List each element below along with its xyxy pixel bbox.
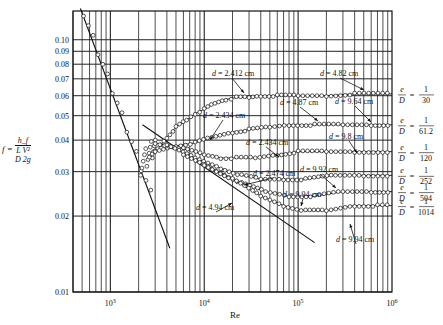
annotation-label: d = 4.87 cm: [280, 98, 319, 107]
data-point: [304, 124, 308, 128]
data-point: [295, 208, 299, 212]
equals-sign: =: [410, 122, 415, 131]
data-point: [301, 149, 305, 153]
y-tick-label: 0.07: [55, 75, 69, 84]
data-point: [280, 153, 284, 157]
friction-factor-chart: d = 2.412 cmd = 4.82 cmd = 4.87 cmd = 9.…: [0, 0, 443, 325]
data-point: [369, 124, 373, 128]
data-point: [346, 190, 350, 194]
data-point: [235, 130, 239, 134]
data-point: [229, 97, 233, 101]
data-point: [355, 190, 359, 194]
data-point: [288, 152, 292, 156]
data-point: [362, 151, 366, 155]
data-point: [380, 203, 384, 207]
annotation-value: = 4.82 cm: [324, 69, 359, 78]
data-point: [376, 151, 380, 155]
data-point: [171, 130, 175, 134]
y-label-den-top: L V²: [16, 146, 30, 155]
data-point: [327, 191, 331, 195]
data-point: [299, 178, 303, 182]
data-point: [381, 174, 385, 178]
data-point: [271, 95, 275, 99]
x-tick-label: 106: [387, 298, 398, 308]
data-point: [264, 125, 268, 129]
data-point: [268, 125, 272, 129]
data-point: [231, 177, 235, 181]
y-tick-label: 0.09: [55, 47, 69, 56]
roughness-label: eD=1120: [398, 143, 434, 163]
data-point: [247, 186, 251, 190]
data-point: [218, 133, 222, 137]
data-point: [329, 150, 333, 154]
laminar-data-point: [120, 111, 124, 115]
data-point: [206, 166, 210, 170]
data-point: [282, 124, 286, 128]
data-point: [263, 196, 267, 200]
data-point: [244, 155, 248, 159]
y-tick-label: 0.06: [55, 92, 69, 101]
reference-line: [80, 9, 169, 249]
data-point: [282, 178, 286, 182]
data-point: [299, 209, 303, 213]
roughness-e: e: [400, 85, 404, 94]
transition-data-point: [140, 166, 144, 170]
annotation-value: = 2.412 cm: [216, 69, 255, 78]
data-point: [382, 191, 386, 195]
data-point: [312, 175, 316, 179]
roughness-labels: eD=130eD=161.2eD=1120eD=1252eD=1504eD=11…: [398, 85, 434, 217]
data-point: [291, 124, 295, 128]
data-point: [231, 131, 235, 135]
data-point: [189, 115, 193, 119]
data-point: [376, 174, 380, 178]
roughness-numerator: 1: [424, 85, 428, 94]
roughness-numerator: 1: [424, 197, 428, 206]
x-tick-label: 104: [199, 298, 210, 308]
annotation-label: d = 9.92 cm: [300, 165, 339, 174]
data-point: [343, 205, 347, 209]
data-point: [273, 192, 277, 196]
reference-lines: [80, 9, 314, 249]
data-point: [186, 155, 190, 159]
y-tick-label: 0.10: [55, 36, 69, 45]
data-point: [286, 178, 290, 182]
data-point: [343, 173, 347, 177]
data-point: [365, 123, 369, 127]
data-point: [206, 136, 210, 140]
roughness-label: eD=130: [398, 85, 434, 105]
data-point: [308, 124, 312, 128]
data-point: [284, 93, 288, 97]
roughness-e: e: [400, 143, 404, 152]
transition-data-point: [149, 140, 153, 144]
data-point: [162, 139, 166, 143]
data-point: [322, 192, 326, 196]
data-point: [219, 157, 223, 161]
data-point: [210, 163, 214, 167]
annotation-label: d = 2.434 cm: [246, 138, 289, 147]
data-point: [385, 91, 389, 95]
y-tick-label: 0.02: [55, 212, 69, 221]
data-point: [353, 205, 357, 209]
data-point: [320, 208, 324, 212]
data-point: [378, 124, 382, 128]
data-point: [239, 95, 243, 99]
data-point: [243, 129, 247, 133]
data-point: [202, 137, 206, 141]
data-point: [329, 94, 333, 98]
data-point: [255, 191, 259, 195]
roughness-denominator: 1014: [418, 208, 434, 217]
roughness-numerator: 1: [424, 143, 428, 152]
data-point: [244, 174, 248, 178]
data-point: [338, 173, 342, 177]
data-point: [341, 190, 345, 194]
data-point: [378, 191, 382, 195]
annotation-label: d = 9.94 cm: [283, 190, 322, 199]
data-point: [353, 91, 357, 95]
laminar-data-point: [125, 130, 129, 134]
laminar-data-point: [144, 179, 148, 183]
data-point: [336, 122, 340, 126]
data-point: [223, 168, 227, 172]
data-point: [382, 124, 386, 128]
data-point: [224, 157, 228, 161]
data-point: [198, 151, 202, 155]
